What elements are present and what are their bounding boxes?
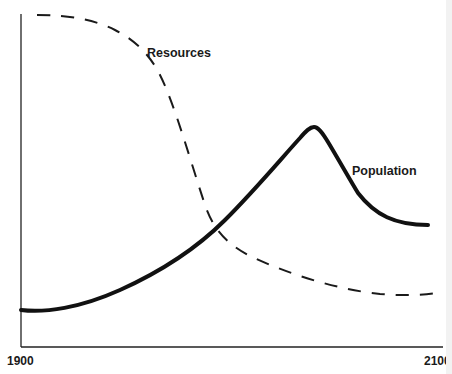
resources-label: Resources bbox=[147, 46, 211, 60]
population-line bbox=[21, 127, 428, 311]
x-tick-1900: 1900 bbox=[7, 354, 34, 368]
chart: Resources Population 1900 2100 bbox=[0, 0, 452, 374]
population-label: Population bbox=[352, 164, 417, 178]
page-edge bbox=[446, 0, 452, 374]
resources-line bbox=[37, 15, 437, 295]
